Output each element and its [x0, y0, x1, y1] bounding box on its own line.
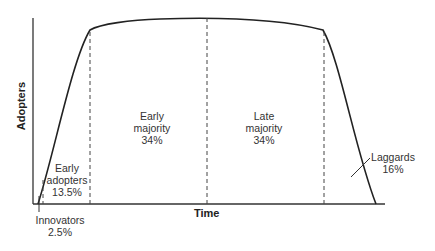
label-late-majority: Late majority 34% [234, 110, 294, 146]
early-majority-line2: majority [122, 122, 182, 134]
label-innovators: Innovators 2.5% [30, 214, 90, 238]
early-majority-line1: Early [122, 110, 182, 122]
laggards-value: 16% [365, 163, 421, 175]
late-majority-line1: Late [234, 110, 294, 122]
early-adopters-line2: adopters [44, 174, 90, 186]
x-axis-title: Time [194, 207, 219, 219]
laggards-name: Laggards [365, 151, 421, 163]
early-adopters-line1: Early [44, 162, 90, 174]
y-axis-title: Adopters [15, 81, 27, 131]
early-majority-value: 34% [122, 134, 182, 146]
label-early-majority: Early majority 34% [122, 110, 182, 146]
innovators-value: 2.5% [30, 226, 90, 238]
late-majority-value: 34% [234, 134, 294, 146]
label-laggards: Laggards 16% [365, 151, 421, 175]
late-majority-line2: majority [234, 122, 294, 134]
innovators-name: Innovators [30, 214, 90, 226]
label-early-adopters: Early adopters 13.5% [44, 162, 90, 198]
early-adopters-value: 13.5% [44, 186, 90, 198]
